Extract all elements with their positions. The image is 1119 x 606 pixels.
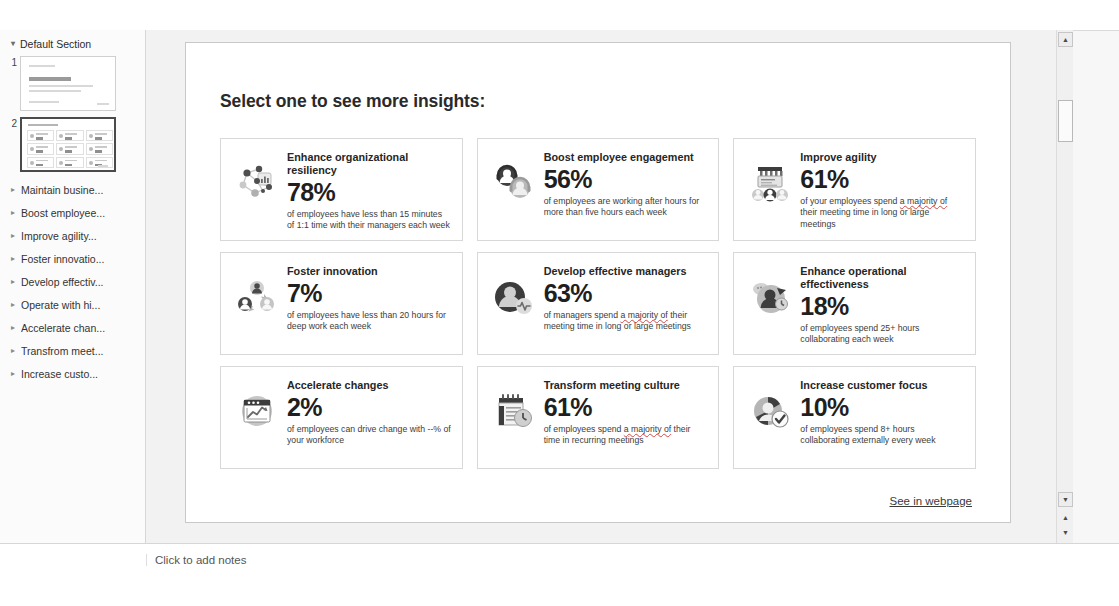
insight-card-boost-employee-engagement[interactable]: Boost employee engagement 56% of employe… (477, 138, 720, 241)
scrollbar-thumb[interactable] (1058, 100, 1073, 142)
sidebar-item-operate-with-high[interactable]: ▸ Operate with hi... (6, 293, 141, 316)
slide-number: 1 (6, 56, 20, 68)
triangle-right-icon[interactable]: ▸ (8, 278, 18, 286)
thumb-cell (86, 130, 113, 141)
triangle-right-icon[interactable]: ▸ (8, 186, 18, 194)
insight-card-develop-effective-managers[interactable]: Develop effective managers 63% of manage… (477, 252, 720, 355)
slide-thumbnail-row[interactable]: 1 (6, 56, 141, 111)
insight-card-increase-customer-focus[interactable]: Increase customer focus 10% of employees… (733, 366, 976, 469)
window-top-strip (0, 0, 1119, 30)
slide-thumbnail-2[interactable] (20, 117, 116, 172)
triangle-right-icon[interactable]: ▸ (8, 347, 18, 355)
outline-item-label: Increase custo... (21, 368, 98, 380)
section-label: Default Section (20, 38, 91, 50)
scroll-up-icon[interactable]: ▲ (1058, 32, 1073, 47)
card-stat-value: 2% (287, 393, 452, 422)
outline-item-label: Accelerate chan... (21, 322, 105, 334)
outline-item-label: Develop effectiv... (21, 276, 104, 288)
card-stat-value: 61% (800, 165, 965, 194)
slide-thumbnail-1[interactable] (20, 56, 116, 111)
vertical-scrollbar[interactable]: ▲ ▼ ▲ ▼ (1056, 30, 1073, 543)
insight-card-enhance-operational-effectiveness[interactable]: Enhance operational effectiveness 18% of… (733, 252, 976, 355)
sidebar-item-develop-effective[interactable]: ▸ Develop effectiv... (6, 270, 141, 293)
thumb-cell (27, 130, 54, 141)
card-description: of employees spend a majority of their t… (544, 424, 709, 447)
previous-slide-icon[interactable]: ▲ (1058, 510, 1073, 525)
triangle-right-icon[interactable]: ▸ (8, 301, 18, 309)
desc-pre: of employees spend (544, 424, 624, 434)
slide-thumbnail-row[interactable]: 2 (6, 117, 141, 172)
thumb-line (98, 165, 108, 167)
card-description: of managers spend a majority of their me… (544, 310, 709, 333)
insight-card-grid: Enhance organizational resiliency 78% of… (220, 138, 976, 469)
notes-placeholder[interactable]: Click to add notes (146, 554, 1046, 566)
team-presentation-icon (744, 157, 796, 209)
insight-card-improve-agility[interactable]: Improve agility 61% of your employees sp… (733, 138, 976, 241)
outline-item-label: Transfrom meet... (21, 345, 103, 357)
notes-pane[interactable]: Click to add notes (0, 543, 1119, 606)
thumb-cell (56, 157, 83, 168)
slide-thumbnail-pane[interactable]: ▾ Default Section 1 2 (0, 30, 146, 543)
card-description: of employees can drive change with --% o… (287, 424, 452, 447)
desc-spellcheck: a majority of (900, 196, 947, 206)
card-stat-value: 18% (800, 292, 965, 321)
page-title: Select one to see more insights: (220, 91, 976, 112)
card-description: of your employees spend a majority of th… (800, 196, 965, 231)
next-slide-icon[interactable]: ▼ (1058, 525, 1073, 540)
card-description: of employees spend 8+ hours collaboratin… (800, 424, 965, 447)
insight-card-transform-meeting-culture[interactable]: Transform meeting culture 61% of employe… (477, 366, 720, 469)
thumb-cell (56, 143, 83, 154)
insight-card-accelerate-changes[interactable]: Accelerate changes 2% of employees can d… (220, 366, 463, 469)
thumb-cell (27, 157, 54, 168)
card-heading: Enhance organizational resiliency (287, 151, 452, 177)
triangle-right-icon[interactable]: ▸ (8, 324, 18, 332)
desc-post: their meeting time in long or large meet… (800, 207, 929, 229)
triangle-right-icon[interactable]: ▸ (8, 209, 18, 217)
scroll-down-icon[interactable]: ▼ (1058, 492, 1073, 507)
insight-card-foster-innovation[interactable]: Foster innovation 7% of employees have l… (220, 252, 463, 355)
outline-item-label: Operate with hi... (21, 299, 100, 311)
sidebar-item-improve-agility[interactable]: ▸ Improve agility... (6, 224, 141, 247)
desc-pre: of managers spend (544, 310, 621, 320)
outline-item-label: Improve agility... (21, 230, 97, 242)
sidebar-item-boost-employee[interactable]: ▸ Boost employee... (6, 201, 141, 224)
desc-pre: of your employees spend (800, 196, 899, 206)
triangle-right-icon[interactable]: ▸ (8, 255, 18, 263)
triangle-right-icon[interactable]: ▸ (8, 370, 18, 378)
thumb-cell (27, 143, 54, 154)
person-clock-arrow-icon (744, 271, 796, 323)
powerpoint-window: ▾ Default Section 1 2 (0, 0, 1119, 606)
slide-number: 2 (6, 117, 20, 129)
triangle-down-icon[interactable]: ▾ (8, 40, 18, 48)
sidebar-item-increase-customer[interactable]: ▸ Increase custo... (6, 362, 141, 385)
thumb-card-grid (27, 130, 113, 168)
card-heading: Transform meeting culture (544, 379, 709, 392)
card-description: of employees have less than 15 minutes o… (287, 209, 452, 232)
desc-pre: of employees spend 25+ hours collaborati… (800, 323, 919, 345)
sidebar-item-transform-meetings[interactable]: ▸ Transfrom meet... (6, 339, 141, 362)
card-stat-value: 56% (544, 165, 709, 194)
see-in-webpage-link[interactable]: See in webpage (890, 495, 972, 507)
network-nodes-chart-icon (231, 157, 283, 209)
thumb-line (29, 65, 55, 67)
triangle-right-icon[interactable]: ▸ (8, 232, 18, 240)
outline-item-label: Boost employee... (21, 207, 105, 219)
card-heading: Improve agility (800, 151, 965, 164)
desc-pre: of employees are working after hours for… (544, 196, 699, 218)
desc-pre: of employees can drive change with --% o… (287, 424, 451, 446)
card-stat-value: 7% (287, 279, 452, 308)
thumb-line (29, 85, 93, 87)
slide-canvas[interactable]: Select one to see more insights: (185, 42, 1011, 523)
insight-card-enhance-organizational-resiliency[interactable]: Enhance organizational resiliency 78% of… (220, 138, 463, 241)
sidebar-item-foster-innovation[interactable]: ▸ Foster innovatio... (6, 247, 141, 270)
person-check-circle-icon (744, 385, 796, 437)
sidebar-item-maintain-business[interactable]: ▸ Maintain busine... (6, 178, 141, 201)
sidebar-item-accelerate-changes[interactable]: ▸ Accelerate chan... (6, 316, 141, 339)
section-header-default-section[interactable]: ▾ Default Section (6, 36, 141, 54)
thumb-cell (56, 130, 83, 141)
two-people-headset-icon (488, 157, 540, 209)
card-description: of employees have less than 20 hours for… (287, 310, 452, 333)
card-stat-value: 61% (544, 393, 709, 422)
desc-spellcheck: a majority of (620, 310, 667, 320)
card-stat-value: 63% (544, 279, 709, 308)
